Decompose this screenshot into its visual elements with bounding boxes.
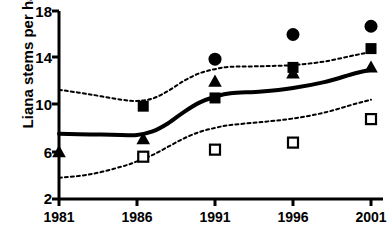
plot-area [0, 0, 389, 235]
data-point-open-square [288, 138, 298, 148]
data-point-filled-triangle [208, 75, 222, 87]
chart-figure: Liana stems per ha 18 14 10 6 2 1981 198… [0, 0, 389, 235]
axes [52, 11, 383, 206]
data-point-filled-square [138, 101, 149, 112]
data-point-filled-square [366, 43, 377, 54]
data-point-filled-circle [209, 53, 222, 66]
data-point-filled-triangle [364, 60, 378, 72]
data-point-filled-circle [365, 20, 378, 33]
data-point-filled-circle [287, 28, 300, 41]
data-markers [52, 20, 378, 162]
data-point-open-square [366, 114, 376, 124]
lower-confidence-band [59, 100, 371, 178]
data-point-filled-square [210, 92, 221, 103]
confidence-bands [59, 52, 371, 178]
data-point-open-square [210, 145, 220, 155]
data-point-open-square [138, 152, 148, 162]
